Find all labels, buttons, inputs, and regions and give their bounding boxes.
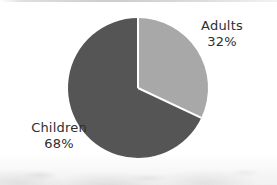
pie-label-children-name: Children [16,120,102,136]
pie-label-adults-value: 32% [182,34,262,50]
pie-label-children-value: 68% [16,136,102,152]
pie-label-children: Children 68% [16,120,102,152]
pie-label-adults-name: Adults [182,18,262,34]
pie-label-adults: Adults 32% [182,18,262,50]
pie-chart-figure: Adults 32% Children 68% [0,0,277,185]
